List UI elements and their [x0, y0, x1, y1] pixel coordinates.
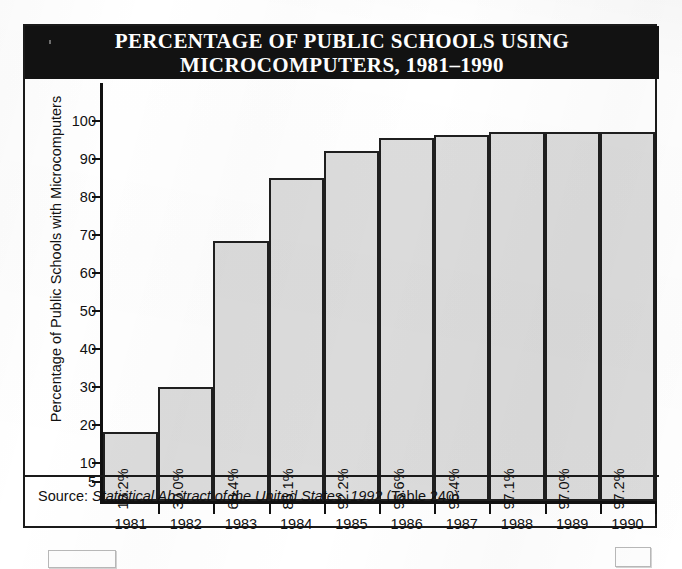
- x-axis-year-label: 1988: [487, 516, 547, 532]
- y-axis-tick-label: 90: [62, 151, 96, 167]
- y-axis-tick-mark: [92, 481, 100, 483]
- x-axis-year-label: 1985: [321, 516, 381, 532]
- source-table-ref: (Table 240): [382, 488, 459, 504]
- x-axis-year-label: 1990: [597, 516, 657, 532]
- y-axis-tick-mark: [92, 196, 100, 198]
- y-axis-tick-mark: [92, 158, 100, 160]
- x-axis-year-label: 1981: [101, 516, 161, 532]
- y-axis-tick-mark: [92, 272, 100, 274]
- chart-title-line-1: PERCENTAGE OF PUBLIC SCHOOLS USING: [115, 29, 570, 53]
- source-divider: [25, 475, 659, 477]
- x-axis-tick-mark: [434, 504, 436, 514]
- y-axis-tick-label: 80: [62, 189, 96, 205]
- plot-area: Percentage of Public Schools with Microc…: [25, 79, 659, 475]
- y-axis-tick-label: 100: [62, 113, 96, 129]
- y-axis-tick-mark: [92, 424, 100, 426]
- y-axis-tick-label: 40: [62, 341, 96, 357]
- chart-title-banner: PERCENTAGE OF PUBLIC SCHOOLS USING MICRO…: [25, 26, 659, 79]
- x-axis-year-label: 1987: [432, 516, 492, 532]
- y-axis-tick-label: 60: [62, 265, 96, 281]
- y-axis-tick-mark: [92, 120, 100, 122]
- bar: 97.2%: [600, 132, 655, 501]
- x-axis-year-label: 1983: [211, 516, 271, 532]
- x-axis-tick-mark: [269, 504, 271, 514]
- scan-artifact-box-right: [615, 547, 651, 567]
- y-axis-tick-mark: [92, 310, 100, 312]
- y-axis-tick-label: 50: [62, 303, 96, 319]
- y-axis-tick-mark: [92, 386, 100, 388]
- x-axis-tick-mark: [213, 504, 215, 514]
- y-axis-tick-label: 70: [62, 227, 96, 243]
- y-axis-tick-label: 30: [62, 379, 96, 395]
- bar: 97.0%: [545, 132, 600, 501]
- x-axis-tick-mark: [158, 504, 160, 514]
- x-axis-tick-mark: [324, 504, 326, 514]
- source-title: Statistical Abstract of the United State…: [92, 488, 382, 504]
- y-axis-tick-mark: [92, 462, 100, 464]
- x-axis-tick-mark: [379, 504, 381, 514]
- bar: 95.6%: [379, 138, 434, 501]
- bar: 85.1%: [269, 178, 324, 501]
- x-axis-year-label: 1989: [542, 516, 602, 532]
- scan-speck: [49, 40, 51, 44]
- x-axis-tick-mark: [600, 504, 602, 514]
- x-axis-year-label: 1984: [266, 516, 326, 532]
- y-axis-tick-mark: [92, 348, 100, 350]
- source-note: Source: Statistical Abstract of the Unit…: [38, 488, 459, 504]
- figure-frame: PERCENTAGE OF PUBLIC SCHOOLS USING MICRO…: [23, 24, 657, 528]
- bar: 30.0%: [158, 387, 213, 501]
- y-axis-title: Percentage of Public Schools with Microc…: [48, 94, 64, 424]
- bar: 92.2%: [324, 151, 379, 501]
- bar: 96.4%: [434, 135, 489, 501]
- x-axis-tick-mark: [489, 504, 491, 514]
- source-prefix: Source:: [38, 488, 92, 504]
- bars-container: 18.2%30.0%68.4%85.1%92.2%95.6%96.4%97.1%…: [103, 79, 657, 504]
- chart-title-line-2: MICROCOMPUTERS, 1981–1990: [180, 53, 504, 77]
- y-axis-tick-label: 10: [62, 455, 96, 471]
- y-axis-tick-label: 20: [62, 417, 96, 433]
- y-axis-tick-mark: [92, 234, 100, 236]
- x-axis-year-label: 1986: [377, 516, 437, 532]
- x-axis-year-label: 1982: [156, 516, 216, 532]
- x-axis-tick-mark: [655, 504, 657, 514]
- scan-artifact-box-left: [48, 550, 116, 568]
- bar: 68.4%: [213, 241, 268, 501]
- x-axis-tick-mark: [545, 504, 547, 514]
- bar: 97.1%: [489, 132, 544, 501]
